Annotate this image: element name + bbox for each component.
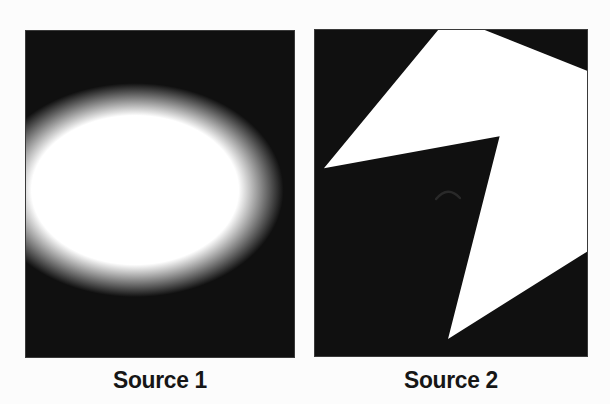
source-1-caption: Source 1: [32, 366, 289, 394]
figure-page: Source 1 Source 2: [0, 0, 610, 404]
lightning-polygon-shape: [324, 30, 587, 339]
print-artifact-arc: [436, 192, 460, 199]
source-2-caption: Source 2: [321, 366, 581, 394]
source-2-image: [314, 29, 588, 357]
source-2-canvas: [315, 30, 587, 356]
source-1-image: [25, 30, 295, 358]
